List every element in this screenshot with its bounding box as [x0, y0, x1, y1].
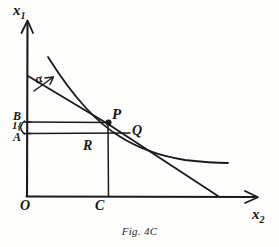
x-axis-label-text: x — [252, 206, 260, 222]
label-point-p: P — [112, 107, 121, 122]
label-point-r: R — [83, 139, 92, 153]
line-b-to-p — [28, 122, 111, 123]
label-point-q: Q — [132, 124, 142, 138]
isoquant-curve — [48, 57, 228, 163]
y-axis-label-text: x — [13, 2, 21, 18]
label-point-a: A — [13, 131, 21, 143]
figure-caption: Fig. 4C — [0, 225, 279, 237]
line-a-to-q — [28, 133, 131, 134]
x-axis-label-subscript: 2 — [260, 214, 265, 225]
figure-container: x1 x2 B 1{ A P Q R O C α Fig. 4C — [0, 0, 279, 247]
y-axis-label-subscript: 1 — [21, 10, 26, 21]
x-axis-line — [27, 197, 256, 198]
x-axis-label: x2 — [252, 207, 265, 225]
point-marker-p — [105, 119, 111, 125]
label-origin: O — [20, 199, 30, 213]
label-point-c: C — [95, 199, 104, 213]
y-axis-label: x1 — [13, 3, 26, 21]
line-c-to-p — [108, 123, 109, 197]
y-axis-line — [27, 24, 28, 196]
tangent-price-line — [28, 76, 218, 196]
